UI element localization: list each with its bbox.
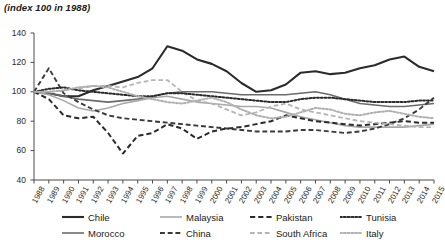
legend-swatch-pakistan [250, 212, 272, 222]
y-axis-tick-label: 80 [2, 116, 26, 126]
y-axis-tick-label: 100 [2, 86, 26, 96]
series-line-malaysia [34, 92, 434, 127]
series-line-south-africa [34, 80, 434, 127]
legend-item-tunisia[interactable]: Tunisia [340, 209, 396, 225]
legend-label: Tunisia [366, 212, 396, 223]
legend-label: Morocco [88, 228, 124, 239]
legend-row-1: ChileMalaysiaPakistanTunisia [0, 209, 445, 225]
legend-swatch-malaysia [160, 212, 182, 222]
legend-swatch-china [160, 228, 182, 238]
legend-swatch-chile [62, 212, 84, 222]
legend-swatch-south-africa [250, 228, 272, 238]
legend-label: Pakistan [276, 212, 312, 223]
legend-item-chile[interactable]: Chile [62, 209, 110, 225]
legend-label: Italy [366, 228, 383, 239]
legend-row-2: MoroccoChinaSouth AfricaItaly [0, 225, 445, 241]
legend-item-italy[interactable]: Italy [340, 225, 383, 241]
legend-label: Chile [88, 212, 110, 223]
legend-label: Malaysia [186, 212, 224, 223]
legend-swatch-italy [340, 228, 362, 238]
series-line-chile [34, 46, 434, 96]
legend-item-pakistan[interactable]: Pakistan [250, 209, 312, 225]
y-axis-tick-label: 60 [2, 145, 26, 155]
legend-item-malaysia[interactable]: Malaysia [160, 209, 224, 225]
legend-item-south-africa[interactable]: South Africa [250, 225, 327, 241]
legend-swatch-morocco [62, 228, 84, 238]
chart-container: (index 100 in 1988) 406080100120140 1988… [0, 0, 445, 247]
y-axis-tick-label: 120 [2, 57, 26, 67]
legend-item-morocco[interactable]: Morocco [62, 225, 124, 241]
chart-legend: ChileMalaysiaPakistanTunisia MoroccoChin… [0, 209, 445, 247]
legend-label: South Africa [276, 228, 327, 239]
legend-swatch-tunisia [340, 212, 362, 222]
y-axis-tick-label: 140 [2, 28, 26, 38]
legend-label: China [186, 228, 211, 239]
legend-item-china[interactable]: China [160, 225, 211, 241]
y-axis-tick-label: 40 [2, 175, 26, 185]
